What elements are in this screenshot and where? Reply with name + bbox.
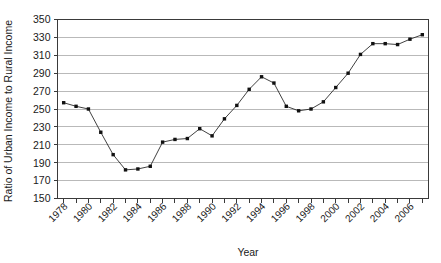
y-tick-label: 170: [33, 174, 51, 186]
data-point-marker: [99, 131, 102, 134]
data-point-marker: [87, 107, 90, 110]
data-point-marker: [384, 42, 387, 45]
line-chart: 150170190210230250270290310330350 197819…: [0, 0, 441, 263]
data-point-marker: [235, 104, 238, 107]
y-tick-label: 330: [33, 31, 51, 43]
data-point-marker: [247, 88, 250, 91]
data-point-marker: [421, 33, 424, 36]
data-point-marker: [173, 138, 176, 141]
data-point-marker: [124, 168, 127, 171]
y-tick-label: 290: [33, 67, 51, 79]
data-point-marker: [136, 167, 139, 170]
y-tick-label: 210: [33, 139, 51, 151]
data-point-marker: [371, 42, 374, 45]
data-point-marker: [285, 105, 288, 108]
chart-container: 150170190210230250270290310330350 197819…: [0, 0, 441, 263]
data-point-marker: [396, 43, 399, 46]
data-point-marker: [297, 109, 300, 112]
y-tick-label: 190: [33, 157, 51, 169]
x-axis-title: Year: [237, 246, 259, 258]
data-point-marker: [322, 100, 325, 103]
data-point-marker: [309, 107, 312, 110]
data-point-marker: [260, 75, 263, 78]
data-point-marker: [210, 134, 213, 137]
data-point-marker: [272, 81, 275, 84]
data-point-marker: [223, 117, 226, 120]
data-point-marker: [346, 72, 349, 75]
data-point-marker: [161, 140, 164, 143]
y-tick-label: 250: [33, 103, 51, 115]
data-point-marker: [408, 37, 411, 40]
y-axis-tick-labels: 150170190210230250270290310330350: [33, 13, 51, 204]
y-tick-label: 350: [33, 13, 51, 25]
data-point-marker: [359, 53, 362, 56]
data-point-marker: [111, 153, 114, 156]
data-point-marker: [186, 137, 189, 140]
y-tick-label: 270: [33, 85, 51, 97]
y-tick-label: 230: [33, 121, 51, 133]
data-point-marker: [62, 101, 65, 104]
y-tick-label: 150: [33, 192, 51, 204]
data-point-marker: [334, 86, 337, 89]
data-point-marker: [149, 165, 152, 168]
y-tick-label: 310: [33, 49, 51, 61]
data-point-marker: [198, 127, 201, 130]
y-axis-title: Ratio of Urban Income to Rural Income: [2, 20, 14, 202]
data-point-marker: [74, 105, 77, 108]
